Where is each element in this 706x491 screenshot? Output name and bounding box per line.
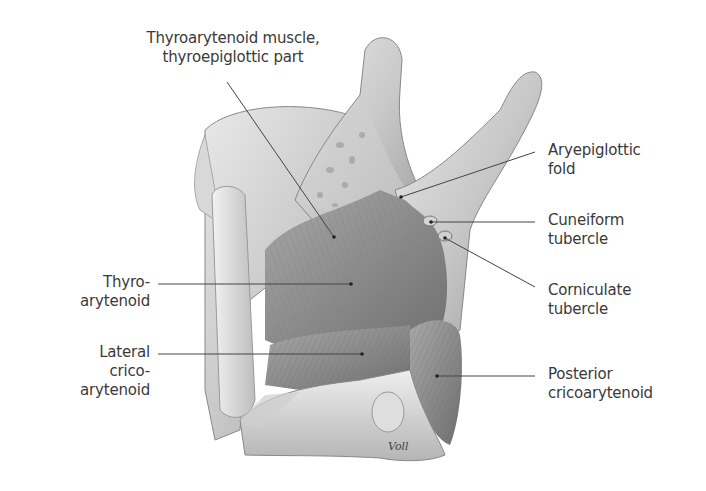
label-line: arytenoid	[40, 381, 150, 400]
label-cuneiform-tubercle: Cuneiform tubercle	[548, 211, 624, 249]
label-line: tubercle	[548, 230, 624, 249]
label-line: cricoarytenoid	[548, 384, 653, 403]
label-line: crico-	[40, 362, 150, 381]
label-line: fold	[548, 160, 641, 179]
artist-signature: Voll	[388, 440, 409, 453]
label-line: Corniculate	[548, 281, 631, 300]
label-aryepiglottic-fold: Aryepiglottic fold	[548, 141, 641, 179]
label-lateral-cricoarytenoid: Lateral crico- arytenoid	[40, 343, 150, 400]
label-line: Posterior	[548, 365, 653, 384]
label-line: tubercle	[548, 300, 631, 319]
label-line: Thyroarytenoid muscle,	[108, 29, 358, 48]
label-line: Cuneiform	[548, 211, 624, 230]
label-corniculate-tubercle: Corniculate tubercle	[548, 281, 631, 319]
label-line: arytenoid	[40, 292, 150, 311]
label-line: Thyro-	[40, 273, 150, 292]
label-line: Aryepiglottic	[548, 141, 641, 160]
label-line: Lateral	[40, 343, 150, 362]
label-thyroarytenoid-thyroepiglottic: Thyroarytenoid muscle, thyroepiglottic p…	[108, 29, 358, 67]
label-posterior-cricoarytenoid: Posterior cricoarytenoid	[548, 365, 653, 403]
label-line: thyroepiglottic part	[108, 48, 358, 67]
label-thyroarytenoid: Thyro- arytenoid	[40, 273, 150, 311]
